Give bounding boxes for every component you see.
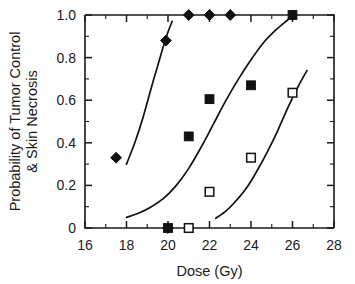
x-tick-label: 18 [119,237,135,253]
x-tick-label: 28 [326,237,342,253]
data-point-open-square [247,153,256,162]
y-tick-label: 0.4 [57,135,77,151]
y-tick-label: 0.8 [57,50,77,66]
y-tick-label: 1.0 [57,7,77,23]
scatter-plot: 1618202224262800.20.40.60.81.0Dose (Gy)P… [0,0,355,284]
data-point-filled-square [164,224,173,233]
y-axis-title: Probability of Tumor Control [7,32,23,212]
data-point-filled-square [247,81,256,90]
data-point-diamond [204,10,215,21]
x-tick-label: 24 [243,237,259,253]
y-axis-title: & Skin Necrosis [24,70,40,172]
y-tick-label: 0 [68,220,76,236]
data-point-open-square [184,224,193,233]
data-markers [111,10,297,234]
data-point-diamond [161,35,172,46]
x-tick-label: 20 [160,237,176,253]
data-point-open-square [205,187,214,196]
data-point-diamond [183,10,194,21]
x-tick-label: 16 [77,237,93,253]
fit-curves [127,15,308,218]
x-tick-label: 26 [285,237,301,253]
y-tick-label: 0.6 [57,92,77,108]
chart-figure: 1618202224262800.20.40.60.81.0Dose (Gy)P… [0,0,355,284]
data-point-filled-square [288,11,297,20]
y-tick-label: 0.2 [57,177,77,193]
data-point-diamond [111,152,122,163]
axis-labels: 1618202224262800.20.40.60.81.0Dose (Gy)P… [7,7,342,279]
data-point-diamond [225,10,236,21]
data-point-filled-square [205,95,214,104]
x-tick-label: 22 [202,237,218,253]
data-point-open-square [288,88,297,97]
data-point-filled-square [184,132,193,141]
x-axis-title: Dose (Gy) [176,263,242,279]
